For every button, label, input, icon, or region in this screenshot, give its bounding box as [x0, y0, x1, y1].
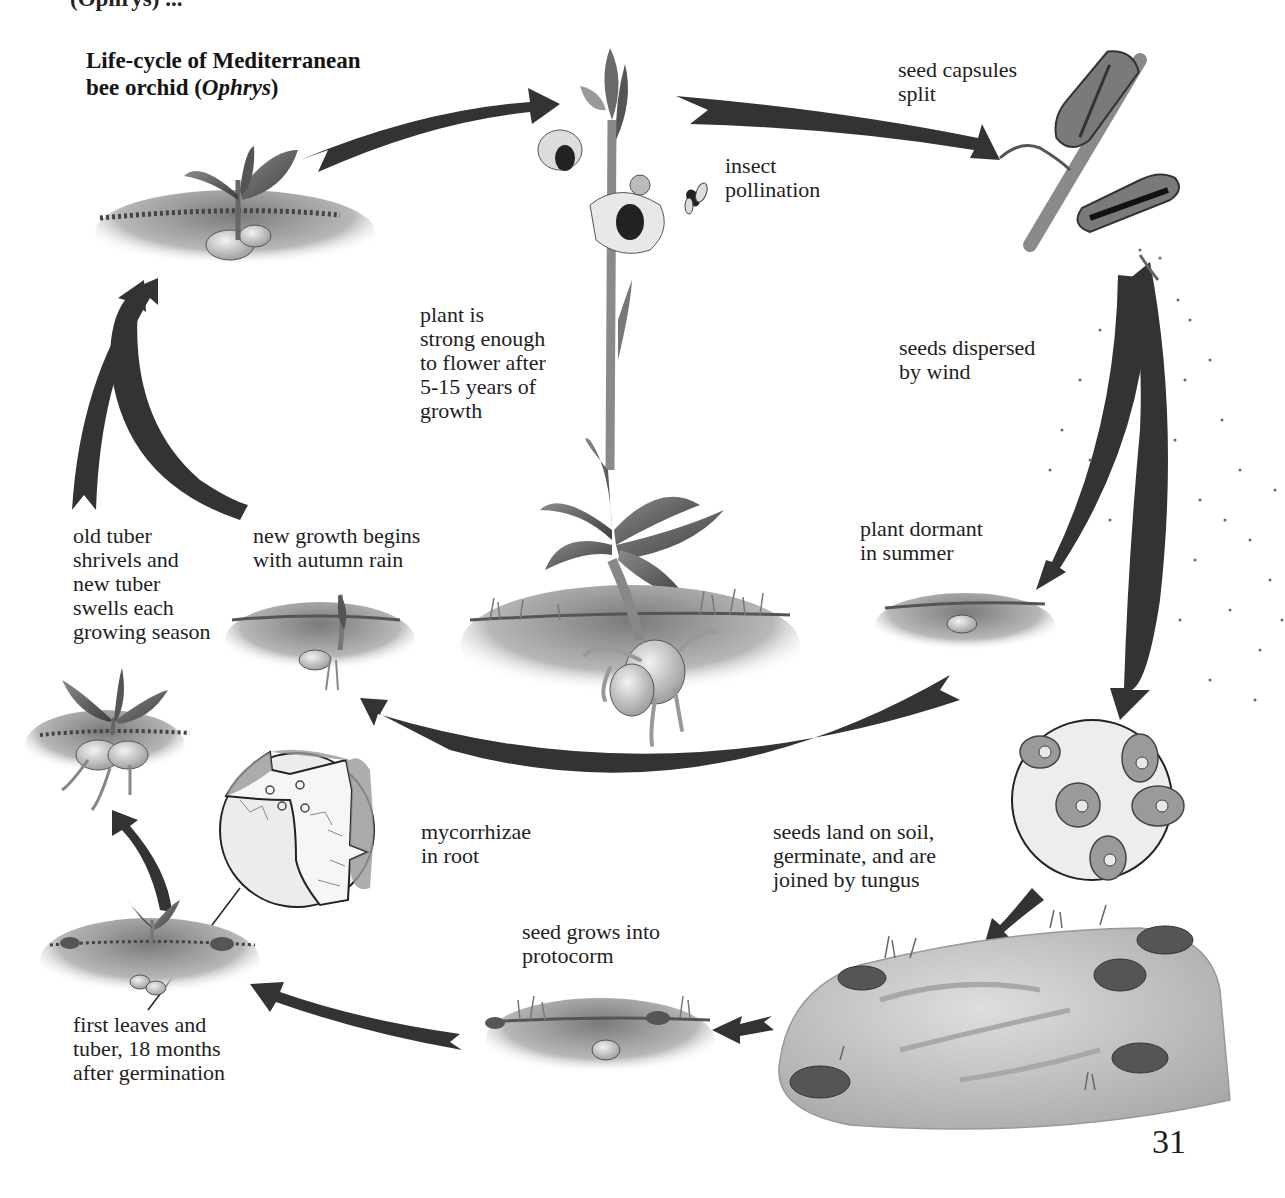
title-line-2: bee orchid (Ophrys)	[86, 74, 361, 101]
germinating-seeds-magnified-circle	[1012, 720, 1184, 880]
tuber-plant-left	[25, 668, 190, 810]
label-seed-grows: seed grows into protocorm	[522, 920, 660, 968]
label-seeds-land: seeds land on soil, germinate, and are j…	[773, 820, 936, 892]
arrow-to-first-leaves	[250, 982, 462, 1050]
page-number: 31	[1152, 1124, 1186, 1160]
rock-soil-scene	[779, 905, 1230, 1129]
arrow-new-growth-up	[110, 280, 248, 520]
protocorm-soil	[485, 996, 715, 1082]
title-genus: Ophrys	[202, 75, 271, 100]
title-prefix: bee orchid (	[86, 75, 202, 100]
arrow-to-protocorm	[712, 1016, 774, 1044]
label-seeds-dispersed: seeds dispersed by wind	[899, 336, 1035, 384]
label-first-leaves: first leaves and tuber, 18 months after …	[73, 1013, 225, 1085]
title-suffix: )	[271, 75, 279, 100]
seed-capsules	[1000, 40, 1179, 280]
first-leaves-soil	[40, 900, 260, 1002]
orchid-flower-upper	[538, 130, 582, 171]
diagram-title: Life-cycle of Mediterranean bee orchid (…	[86, 47, 361, 101]
label-seed-capsules: seed capsules split	[898, 58, 1017, 106]
label-plant-strong-enough: plant is strong enough to flower after 5…	[420, 303, 546, 423]
arrow-first-leaves-up	[112, 810, 172, 912]
orchid-flower-lower	[590, 175, 664, 253]
label-insect-pollination: insect pollination	[725, 154, 820, 202]
dormant-tuber-soil	[875, 593, 1055, 657]
new-growth-soil	[225, 594, 415, 690]
label-old-tuber: old tuber shrivels and new tuber swells …	[73, 524, 210, 644]
label-mycorrhizae: mycorrhizae in root	[421, 820, 531, 868]
label-plant-dormant: plant dormant in summer	[860, 517, 983, 565]
bee-icon	[683, 181, 709, 214]
title-line-1: Life-cycle of Mediterranean	[86, 47, 361, 74]
label-new-growth: new growth begins with autumn rain	[253, 524, 420, 572]
